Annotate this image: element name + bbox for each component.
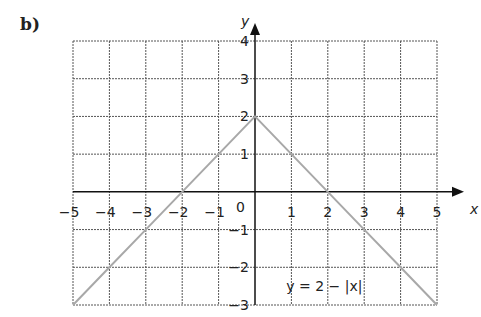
x-tick-label: −2	[168, 204, 189, 220]
y-tick-label: 4	[240, 33, 249, 49]
x-tick-label: 1	[287, 204, 296, 220]
x-tick-label: 4	[396, 204, 405, 220]
x-tick-label: −5	[59, 204, 80, 220]
x-tick-label: −4	[95, 204, 116, 220]
y-tick-label: −2	[228, 259, 249, 275]
y-tick-label: 3	[240, 71, 249, 87]
graph: −5−4−3−2−1123454321−1−2−30xyy = 2 − |x|	[0, 0, 481, 317]
x-axis-arrow-icon	[452, 187, 464, 197]
y-tick-label: −3	[228, 297, 249, 313]
equation-annotation: y = 2 − |x|	[286, 278, 362, 295]
x-tick-label: −3	[131, 204, 152, 220]
x-tick-label: 3	[360, 204, 369, 220]
y-tick-label: 2	[240, 108, 249, 124]
y-axis-label: y	[240, 13, 250, 29]
origin-label: 0	[236, 199, 245, 215]
x-axis-label: x	[469, 201, 479, 217]
x-tick-label: 2	[323, 204, 332, 220]
x-tick-label: −1	[204, 204, 225, 220]
y-axis-arrow-icon	[250, 23, 260, 35]
y-tick-label: −1	[228, 222, 249, 238]
y-tick-label: 1	[240, 146, 249, 162]
x-tick-label: 5	[433, 204, 442, 220]
